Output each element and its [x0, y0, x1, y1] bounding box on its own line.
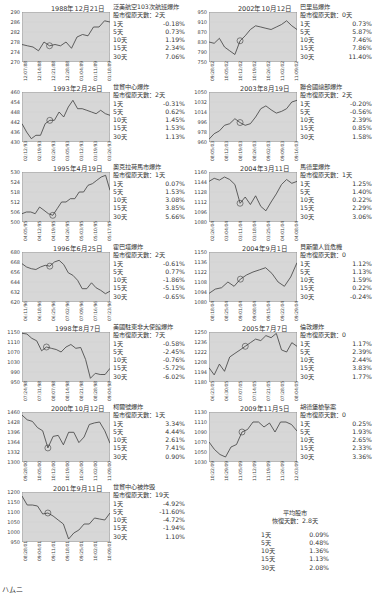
x-tick-label: 08/19/03: [238, 141, 243, 161]
period-label: 5天: [300, 108, 310, 116]
x-tick-label: 11/19/09: [266, 461, 271, 481]
event-name: 美國駐東非大使館爆炸: [113, 323, 185, 331]
x-tick-label: 10/29/09: [224, 461, 229, 481]
return-value: -0.76%: [163, 356, 185, 364]
event-name: 馬德里爆炸: [300, 163, 372, 171]
return-row: 10天 1.19%: [113, 36, 185, 44]
x-tick-label: 05/03/95: [79, 221, 84, 241]
return-value: 1.13%: [309, 555, 329, 563]
return-value: 0.09%: [309, 531, 329, 539]
period-label: 1天: [113, 100, 123, 108]
return-value: 0.62%: [165, 108, 185, 116]
recovery-days: 股市復原天數：2天: [300, 91, 372, 99]
return-row: 30天 -6.02%: [113, 373, 185, 381]
y-tick-label: 1150: [187, 249, 207, 255]
period-label: 30天: [300, 53, 314, 61]
y-tick-label: 990: [0, 369, 20, 375]
event-name: 聯合國總部爆炸: [300, 83, 372, 91]
x-tick-label: 01/18/89: [107, 61, 112, 81]
x-tick-label: 06/23/05: [210, 381, 215, 401]
period-label: 5天: [113, 28, 123, 36]
y-tick-label: 448: [0, 109, 20, 115]
recovery-days: 股市復原天數：19天: [113, 491, 185, 499]
y-tick-label: 996: [187, 119, 207, 125]
period-label: 10天: [300, 36, 314, 44]
x-tick-label: 03/11/04: [238, 221, 243, 241]
period-label: 15天: [300, 124, 314, 132]
y-tick-label: 270: [0, 59, 20, 65]
x-tick-label: 09/09/03: [280, 141, 285, 161]
event-name: 柯爾號爆炸: [113, 403, 185, 411]
line-plot-area: [22, 492, 110, 542]
x-tick-label: 09/01/04: [238, 301, 243, 321]
x-tick-label: 07/24/98: [23, 381, 28, 401]
y-tick-label: 454: [0, 99, 20, 105]
x-tick-label: 10/12/00: [51, 461, 56, 481]
period-label: 30天: [113, 533, 127, 541]
period-label: 5天: [300, 428, 310, 436]
return-value: -0.24%: [350, 293, 372, 301]
event-name: 世貿中心被炸毀: [113, 483, 185, 491]
period-label: 15天: [300, 204, 314, 212]
period-label: 15天: [300, 44, 314, 52]
period-label: 5天: [113, 428, 123, 436]
return-row: 15天 7.41%: [113, 444, 185, 452]
period-label: 5天: [113, 268, 123, 276]
return-value: -0.65%: [163, 293, 185, 301]
x-tick-label: 08/18/04: [210, 301, 215, 321]
return-row: 5天 4.44%: [113, 428, 185, 436]
x-tick-label: 02/19/93: [37, 141, 42, 161]
y-tick-label: 1096: [187, 209, 207, 215]
return-row: 15天 -1.94%: [113, 524, 185, 532]
period-label: 30天: [113, 53, 127, 61]
return-row: 10天 -1.86%: [113, 276, 185, 284]
return-row: 10天 2.61%: [113, 436, 185, 444]
x-tick-label: 10/19/00: [65, 461, 70, 481]
x-tick-label: 03/18/04: [252, 221, 257, 241]
y-tick-label: 1396: [0, 429, 20, 435]
period-label: 1天: [113, 260, 123, 268]
x-tick-label: 09/28/02: [210, 61, 215, 81]
x-tick-label: 03/25/04: [266, 221, 271, 241]
x-tick-label: 04/26/95: [65, 221, 70, 241]
event-chart-panel: 2004年9月1日108010941108112211361150 08/18/…: [187, 242, 374, 322]
y-tick-label: 656: [0, 269, 20, 275]
x-tick-label: 09/15/04: [266, 301, 271, 321]
recovery-days: 股市復原天數：1天: [113, 171, 185, 179]
return-value: 0.07%: [165, 180, 185, 188]
event-name: 胡德堡槍擊案: [300, 403, 372, 411]
period-label: 10天: [300, 356, 314, 364]
x-tick-label: 03/19/93: [93, 141, 98, 161]
event-name: 巴里島爆炸: [300, 3, 372, 11]
return-value: 1.53%: [165, 124, 185, 132]
y-tick-label: 1110: [187, 419, 207, 425]
return-row: 5天 1.40%: [300, 188, 372, 196]
line-plot-area: [209, 12, 297, 62]
return-value: 2.34%: [165, 44, 185, 52]
line-plot-area: [209, 332, 297, 382]
x-tick-label: 10/09/01: [107, 541, 112, 561]
recovery-days: 股市復原天數：2天: [113, 91, 185, 99]
return-row: 1天 1.17%: [300, 340, 372, 348]
x-tick-label: 11/09/00: [107, 461, 112, 481]
return-row: 15天 0.85%: [300, 124, 372, 132]
y-tick-label: 530: [0, 169, 20, 175]
event-chart-panel: 1993年2月26日430436442448454460 02/12/9302/…: [0, 82, 187, 162]
event-chart-panel: 1998年8月7日9509901030107011101150 07/24/98…: [0, 322, 187, 402]
period-label: 15天: [113, 44, 127, 52]
x-tick-label: 07/09/96: [79, 301, 84, 321]
return-row: 30天 -0.24%: [300, 293, 372, 301]
period-label: 15天: [113, 284, 127, 292]
y-tick-label: 1200: [0, 489, 20, 495]
event-stats: 聯合國總部爆炸 股市復原天數：2天 1天 -0.20% 5天 -0.56% 10…: [300, 83, 372, 141]
x-tick-label: 09/18/01: [65, 541, 70, 561]
return-value: 0.73%: [165, 28, 185, 36]
average-return-row: 15天 1.13%: [255, 555, 335, 563]
period-label: 1天: [113, 500, 123, 508]
y-tick-label: 1428: [0, 419, 20, 425]
event-name: 世貿中心爆炸: [113, 83, 185, 91]
x-tick-label: 09/04/01: [37, 541, 42, 561]
return-value: -5.72%: [163, 364, 185, 372]
event-stats: 柯爾號爆炸 股市復原天數：1天 1天 3.34% 5天 4.44% 10天 2.…: [113, 403, 185, 461]
x-tick-label: 09/25/01: [79, 541, 84, 561]
